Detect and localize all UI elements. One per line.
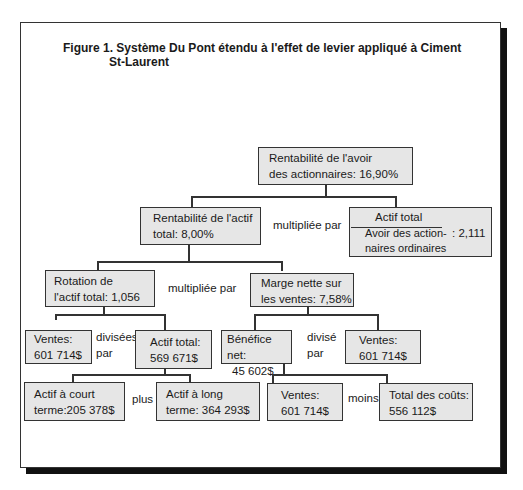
operator-multiply: multipliée par [273, 217, 341, 233]
connector [191, 196, 396, 198]
connector [188, 245, 190, 262]
node-net-profit-margin: Marge nette sur les ventes: 7,58% [250, 273, 354, 307]
operator-multiply: multipliée par [168, 280, 236, 296]
connector [386, 374, 388, 383]
connector [281, 261, 283, 271]
connector [97, 261, 282, 263]
operator-plus: plus [132, 391, 153, 407]
connector [55, 314, 165, 316]
operator-divide: divisé par [307, 329, 336, 361]
node-return-on-equity: Rentabilité de l'avoir des actionnaires:… [258, 147, 413, 185]
operator-divide: divisées par [96, 329, 138, 361]
connector [272, 374, 274, 383]
node-current-assets: Actif à court terme:205 378$ [24, 382, 125, 421]
connector [254, 314, 256, 330]
connector [272, 374, 387, 376]
node-long-term-assets: Actif à long terme: 364 293$ [156, 382, 260, 421]
connector [164, 314, 166, 330]
connector [377, 314, 379, 330]
node-sales: Ventes: 601 714$ [25, 330, 92, 364]
node-sales: Ventes: 601 714$ [345, 330, 421, 364]
node-total-assets: Actif total: 569 671$ [135, 330, 212, 369]
figure-title: Figure 1. Système Du Pont étendu à l'eff… [63, 41, 461, 69]
connector [254, 314, 378, 316]
connector [55, 314, 57, 320]
node-equity-multiplier: Actif total Avoir des action- naires ord… [349, 207, 492, 257]
connector [72, 374, 190, 376]
node-asset-turnover: Rotation de l'actif total: 1,056 [45, 270, 155, 307]
node-total-costs: Total des coûts: 556 112$ [379, 383, 473, 421]
node-net-income: Bénéfice net: 45 602$ [221, 330, 292, 364]
node-return-on-assets: Rentabilité de l'actif total: 8,00% [140, 207, 261, 245]
node-sales: Ventes: 601 714$ [267, 383, 343, 421]
operator-minus: moins [348, 390, 379, 406]
